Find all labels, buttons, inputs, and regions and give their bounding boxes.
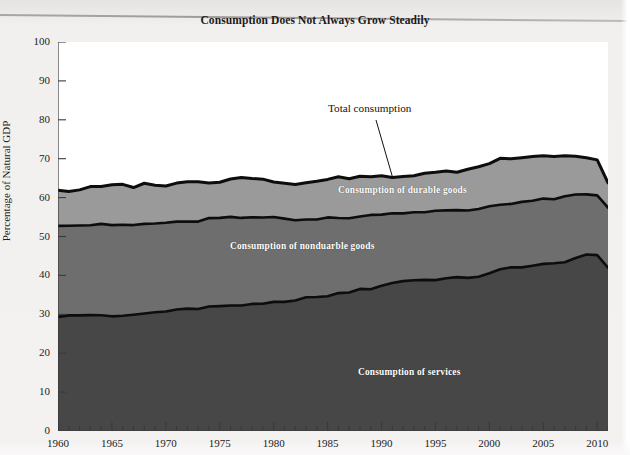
y-tick-60: 60 (20, 191, 50, 203)
y-tick-30: 30 (20, 307, 50, 319)
page-right-edge (621, 0, 630, 455)
y-axis-label: Percentage of Natural GDP (0, 81, 12, 281)
x-tick-1990: 1990 (362, 437, 402, 449)
y-tick-50: 50 (20, 230, 50, 242)
y-tick-100: 100 (20, 35, 50, 47)
x-tick-1960: 1960 (38, 437, 78, 449)
band-label-services: Consumption of services (358, 367, 461, 377)
x-tick-2005: 2005 (523, 437, 563, 449)
y-tick-40: 40 (20, 268, 50, 280)
x-tick-2000: 2000 (469, 437, 509, 449)
y-tick-20: 20 (20, 346, 50, 358)
x-tick-1970: 1970 (146, 437, 186, 449)
stacked-area-chart (58, 42, 608, 431)
annotation-total-consumption: Total consumption (328, 102, 411, 114)
x-tick-1975: 1975 (200, 437, 240, 449)
y-tick-70: 70 (20, 152, 50, 164)
y-tick-0: 0 (20, 424, 50, 436)
x-tick-1985: 1985 (308, 437, 348, 449)
y-tick-80: 80 (20, 113, 50, 125)
y-tick-10: 10 (20, 385, 50, 397)
band-label-nondurable-goods: Consumption of nonduarble goods (230, 241, 375, 251)
chart-title: Consumption Does Not Always Grow Steadil… (0, 14, 630, 26)
x-tick-1980: 1980 (254, 437, 294, 449)
x-tick-1995: 1995 (415, 437, 455, 449)
x-tick-2010: 2010 (577, 437, 617, 449)
x-tick-1965: 1965 (92, 437, 132, 449)
band-label-durable-goods: Consumption of durable goods (338, 185, 467, 195)
plot-area: Consumption of durable goods Consumption… (58, 42, 608, 431)
y-tick-90: 90 (20, 74, 50, 86)
